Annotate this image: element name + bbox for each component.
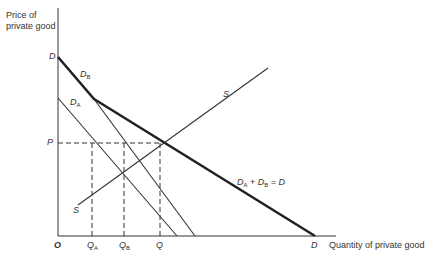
- market-demand-line: [58, 57, 315, 236]
- demand-b-label: DB: [80, 69, 91, 79]
- qa-tick-label: QA: [87, 240, 98, 250]
- eq-db-sub: B: [264, 182, 268, 188]
- qb-sub: B: [126, 245, 130, 251]
- supply-bottom-label: S: [73, 205, 79, 215]
- demand-b-label-main: D: [80, 69, 87, 79]
- eq-da-sub: A: [244, 182, 248, 188]
- y-axis-label-line2: private good: [6, 21, 56, 32]
- demand-a-label: DA: [70, 97, 81, 107]
- y-axis-label: Price of private good: [6, 10, 56, 32]
- eq-da-main: D: [237, 177, 244, 187]
- demand-b-label-sub: B: [87, 74, 91, 80]
- price-label: P: [47, 137, 53, 147]
- qa-main: Q: [87, 240, 94, 250]
- demand-top-intercept-label: D: [49, 51, 56, 61]
- eq-plus: +: [250, 177, 255, 187]
- demand-a-label-main: D: [70, 97, 77, 107]
- y-axis-label-line1: Price of: [6, 10, 56, 21]
- q-tick-label: Q: [156, 240, 163, 250]
- eq-equals-d: = D: [271, 177, 285, 187]
- demand-bottom-intercept-label: D: [311, 240, 318, 250]
- origin-label: O: [54, 240, 61, 250]
- qb-tick-label: QB: [119, 240, 130, 250]
- demand-a-label-sub: A: [77, 102, 81, 108]
- qb-main: Q: [119, 240, 126, 250]
- market-demand-equation-label: DA + DB = D: [237, 177, 285, 187]
- demand-b-line: [94, 99, 195, 236]
- qa-sub: A: [94, 245, 98, 251]
- demand-a-line: [58, 98, 177, 236]
- diagram-canvas: [0, 0, 434, 257]
- supply-top-label: S: [223, 89, 229, 99]
- x-axis-label: Quantity of private good: [329, 240, 425, 250]
